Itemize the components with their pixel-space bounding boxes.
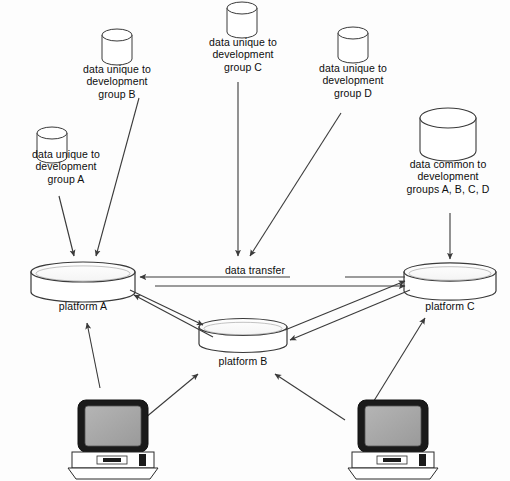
- workstation-icon-left: [68, 400, 158, 479]
- label-platform-a: platform A: [23, 300, 143, 312]
- platform-icon-a: [31, 262, 135, 302]
- platform-icon-c: [404, 263, 496, 300]
- arrow-transfer-b-to-c: [285, 281, 405, 330]
- label-platform-c: platform C: [390, 300, 510, 312]
- arrow-workstation-left-to-platform-b: [145, 374, 198, 418]
- arrow-group-a-to-platform-a: [59, 196, 74, 256]
- label-group-a: data unique to development group A: [0, 148, 132, 185]
- database-icon-group-c: [227, 2, 257, 38]
- database-icon-group-d: [338, 27, 368, 63]
- arrow-group-d-to-platform-b: [250, 113, 341, 256]
- arrow-workstation-right-to-platform-b: [275, 374, 345, 420]
- database-icon-group-b: [102, 29, 132, 65]
- workstation-icon-right: [348, 400, 438, 479]
- arrow-transfer-c-to-b: [290, 290, 410, 340]
- label-group-b: data unique to development group B: [51, 63, 183, 100]
- database-icon-common: [420, 108, 476, 161]
- arrow-workstation-left-to-platform-a: [87, 323, 100, 388]
- label-data-transfer: data transfer: [203, 264, 307, 276]
- label-platform-b: platform B: [183, 355, 303, 367]
- label-common: data common to development groups A, B, …: [373, 158, 510, 195]
- arrow-transfer-b-to-a: [134, 295, 213, 337]
- arrow-workstation-right-to-platform-c: [372, 318, 425, 404]
- diagram-canvas: data unique to development group A data …: [0, 0, 510, 481]
- platform-icon-b: [199, 319, 287, 353]
- label-group-d: data unique to development group D: [287, 62, 419, 99]
